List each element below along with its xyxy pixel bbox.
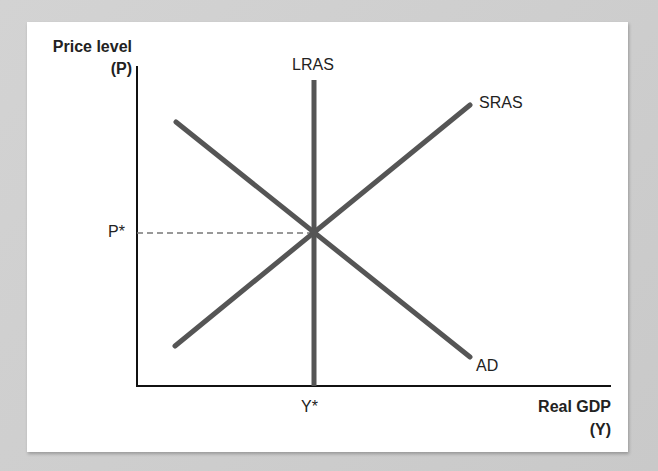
sras-label: SRAS	[479, 94, 523, 112]
lras-label: LRAS	[292, 56, 334, 74]
ad-curve	[176, 122, 470, 357]
equilibrium-output-label: Y*	[301, 398, 318, 416]
ad-label: AD	[476, 357, 498, 375]
equilibrium-price-label: P*	[108, 223, 125, 241]
x-axis-label-line1: Real GDP	[538, 398, 611, 416]
y-axis-label-line2: (P)	[111, 60, 132, 78]
x-axis-label-line2: (Y)	[590, 421, 611, 439]
y-axis-label-line1: Price level	[53, 38, 132, 56]
sras-curve	[175, 105, 470, 346]
